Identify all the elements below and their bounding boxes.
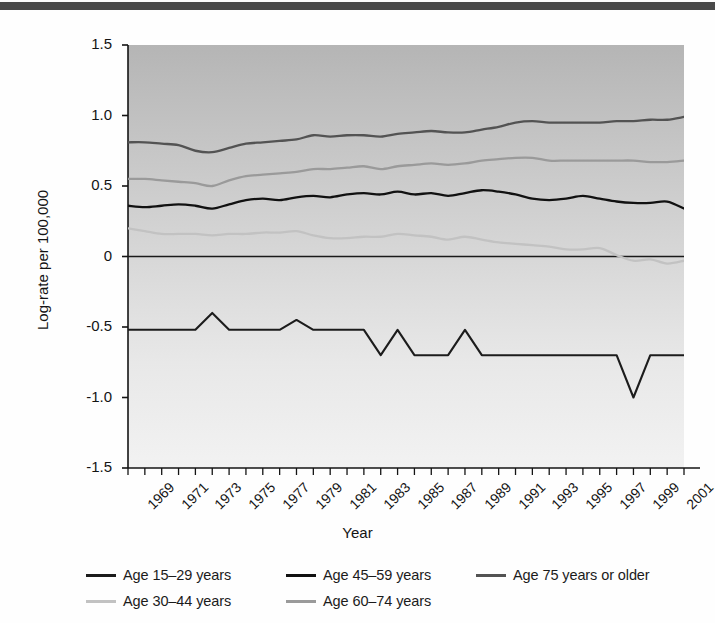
legend-label-age-30-44: Age 30–44 years	[123, 593, 231, 609]
chart-legend: Age 15–29 years Age 45–59 years Age 75 y…	[86, 562, 686, 618]
y-axis-tick-label: 1.0	[66, 106, 112, 123]
legend-label-age-75-plus: Age 75 years or older	[513, 567, 650, 583]
y-axis-tick-label: 1.5	[66, 35, 112, 52]
x-axis-title: Year	[0, 524, 715, 541]
legend-row-2: Age 30–44 years Age 60–74 years	[86, 588, 686, 614]
legend-item-age-15-29[interactable]: Age 15–29 years	[86, 562, 286, 588]
legend-row-1: Age 15–29 years Age 45–59 years Age 75 y…	[86, 562, 686, 588]
y-axis-tick-label: -1.5	[66, 458, 112, 475]
y-axis-tick-label: 0	[66, 247, 112, 264]
legend-item-age-75-plus[interactable]: Age 75 years or older	[476, 562, 686, 588]
legend-item-age-45-59[interactable]: Age 45–59 years	[286, 562, 476, 588]
legend-swatch-icon-age-30-44	[86, 600, 116, 603]
legend-label-age-45-59: Age 45–59 years	[323, 567, 431, 583]
y-axis-tick-label: -1.0	[66, 388, 112, 405]
y-axis-title: Log-rate per 100,000	[34, 190, 51, 330]
legend-swatch-icon-age-75-plus	[476, 574, 506, 577]
y-axis-tick-label: -0.5	[66, 317, 112, 334]
legend-item-empty	[476, 588, 686, 614]
legend-label-age-15-29: Age 15–29 years	[123, 567, 231, 583]
legend-swatch-icon-age-60-74	[286, 600, 316, 603]
figure-container: 1.51.00.50-0.5-1.0-1.5 19691971197319751…	[0, 0, 715, 623]
legend-label-age-60-74: Age 60–74 years	[323, 593, 431, 609]
legend-swatch-icon-age-15-29	[86, 574, 116, 577]
legend-item-age-30-44[interactable]: Age 30–44 years	[86, 588, 286, 614]
legend-item-age-60-74[interactable]: Age 60–74 years	[286, 588, 476, 614]
legend-swatch-icon-age-45-59	[286, 574, 316, 577]
y-axis-tick-label: 0.5	[66, 176, 112, 193]
